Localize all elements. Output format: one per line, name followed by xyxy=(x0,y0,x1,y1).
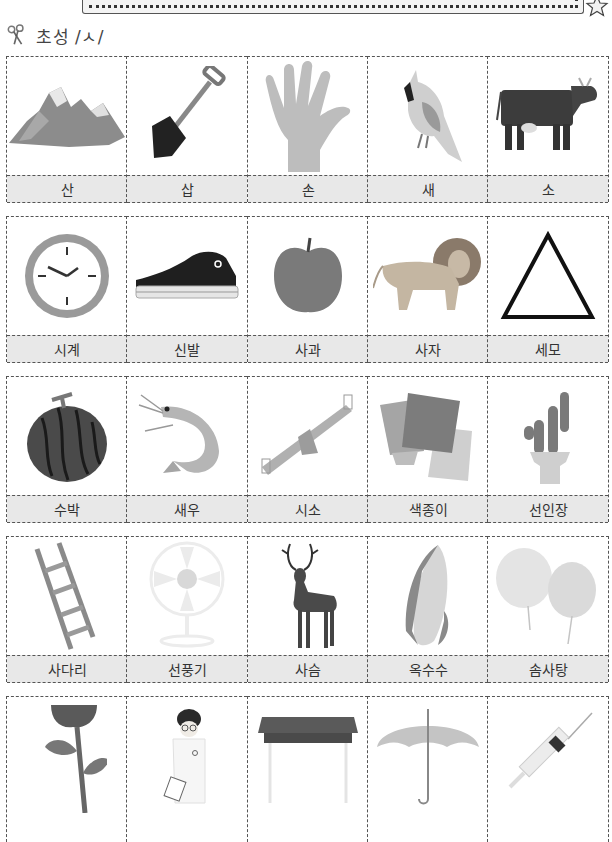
flashcard[interactable]: 사슴 xyxy=(247,536,368,682)
flashcard[interactable] xyxy=(487,696,609,842)
card-label: 소 xyxy=(488,175,608,203)
card-label: 손 xyxy=(248,175,368,203)
card-label: 옥수수 xyxy=(368,655,488,683)
flashcard[interactable]: 새우 xyxy=(126,376,247,522)
seesaw-image xyxy=(248,377,368,495)
flashcard[interactable]: 소 xyxy=(487,56,609,202)
shrimp-image xyxy=(127,377,247,495)
flashcard[interactable] xyxy=(126,696,247,842)
flashcard[interactable]: 사과 xyxy=(247,216,368,362)
card-label: 산 xyxy=(7,175,127,203)
page-title: 초성 /ㅅ/ xyxy=(36,23,104,48)
flashcard[interactable]: 시소 xyxy=(247,376,368,522)
flashcard[interactable]: 사다리 xyxy=(6,536,127,682)
flashcard[interactable]: 옥수수 xyxy=(367,536,488,682)
card-label: 삽 xyxy=(127,175,247,203)
card-label: 솜사탕 xyxy=(488,655,608,683)
flashcard[interactable]: 산 xyxy=(6,56,127,202)
card-label: 새우 xyxy=(127,495,247,523)
card-label: 수박 xyxy=(7,495,127,523)
flower-stem-image xyxy=(7,697,127,819)
flashcard[interactable]: 손 xyxy=(247,56,368,202)
bird-image xyxy=(368,57,488,175)
sneaker-image xyxy=(127,217,247,335)
flashcard[interactable]: 수박 xyxy=(6,376,127,522)
card-label: 세모 xyxy=(488,335,608,363)
shovel-image xyxy=(127,57,247,175)
card-label: 사슴 xyxy=(248,655,368,683)
cactus-image xyxy=(488,377,608,495)
corn-image xyxy=(368,537,488,655)
flashcard[interactable]: 세모 xyxy=(487,216,609,362)
scissors-icon xyxy=(6,24,28,46)
flashcard[interactable]: 선풍기 xyxy=(126,536,247,682)
flashcard[interactable]: 신발 xyxy=(126,216,247,362)
card-row: 시계 신발 사과 사자 세모 xyxy=(6,216,612,362)
triangle-image xyxy=(488,217,608,335)
apple-image xyxy=(248,217,368,335)
card-row xyxy=(6,696,612,842)
watermelon-image xyxy=(7,377,127,495)
section-header: 초성 /ㅅ/ xyxy=(6,20,104,50)
flashcard[interactable]: 솜사탕 xyxy=(487,536,609,682)
electric-fan-image xyxy=(127,537,247,655)
flashcard[interactable] xyxy=(247,696,368,842)
star-icon xyxy=(585,0,609,18)
flashcard[interactable]: 새 xyxy=(367,56,488,202)
deer-image xyxy=(248,537,368,655)
card-label: 선풍기 xyxy=(127,655,247,683)
mountain-image xyxy=(7,57,127,175)
doctor-image xyxy=(127,697,247,821)
card-label: 신발 xyxy=(127,335,247,363)
flashcard[interactable] xyxy=(6,696,127,842)
card-label: 새 xyxy=(368,175,488,203)
umbrella-image xyxy=(368,697,488,825)
top-banner xyxy=(82,0,584,14)
card-label: 사과 xyxy=(248,335,368,363)
flashcard[interactable]: 시계 xyxy=(6,216,127,362)
card-label: 시소 xyxy=(248,495,368,523)
cow-image xyxy=(488,57,608,175)
hand-image xyxy=(248,57,368,175)
card-label: 선인장 xyxy=(488,495,608,523)
flashcard[interactable] xyxy=(367,696,488,842)
banner-dotted-corner xyxy=(575,0,578,8)
lion-image xyxy=(368,217,488,335)
flashcard[interactable]: 삽 xyxy=(126,56,247,202)
clock-image xyxy=(7,217,127,335)
card-row: 수박 새우 시소 색종이 선인장 xyxy=(6,376,612,522)
card-label: 시계 xyxy=(7,335,127,363)
banner-dotted-line xyxy=(89,5,573,8)
desk-image xyxy=(248,697,368,825)
ladder-image xyxy=(7,537,127,655)
syringe-image xyxy=(488,697,608,825)
card-row: 사다리 선풍기 사슴 옥수수 솜사탕 xyxy=(6,536,612,682)
card-label: 색종이 xyxy=(368,495,488,523)
card-row: 산 삽 손 새 소 xyxy=(6,56,612,202)
cotton-candy-image xyxy=(488,537,608,655)
flashcard[interactable]: 색종이 xyxy=(367,376,488,522)
colored-paper-image xyxy=(368,377,488,495)
card-label: 사다리 xyxy=(7,655,127,683)
flashcard[interactable]: 선인장 xyxy=(487,376,609,522)
flashcard[interactable]: 사자 xyxy=(367,216,488,362)
card-label: 사자 xyxy=(368,335,488,363)
